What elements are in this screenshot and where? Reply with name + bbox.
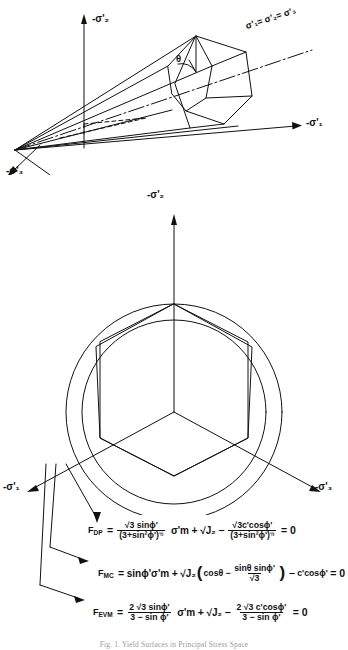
- pi-axis-sigma2-label: -σ'₂: [147, 190, 164, 200]
- equation-fmc-inner-fraction: sinθ sinϕ' √3: [232, 564, 277, 583]
- equation-fmc-plus: +: [172, 567, 178, 579]
- top-axis-sigma3-label: -σ'₃: [6, 166, 23, 176]
- equation-fevm-equals: =: [117, 606, 123, 618]
- cone-generators: [15, 36, 238, 150]
- figure-caption: Fig. 1. Yield Surfaces in Principal Stre…: [0, 640, 348, 649]
- equation-fdp-sigma-m: σ'm: [171, 525, 189, 536]
- equation-fmc-tail: = 0: [330, 567, 345, 579]
- equation-fmc-equals: =: [118, 567, 124, 579]
- equation-fevm-plus: +: [198, 606, 204, 618]
- equation-fdp-minus: −: [218, 524, 224, 536]
- equation-fevm-name: FEVM: [93, 607, 113, 618]
- principal-stress-space-diagram: [0, 0, 348, 175]
- equation-fevm-tail: = 0: [293, 606, 308, 618]
- equation-fevm: FEVM = 2 √3 sinϕ' 3 − sin ϕ' σ'm + √J₂ −…: [93, 603, 310, 622]
- equation-fevm-cohesion-term: 2 √3 c'cosϕ' 3 − sin ϕ': [235, 603, 289, 622]
- equation-fevm-minus: −: [224, 606, 230, 618]
- equation-fdp-plus: +: [192, 524, 198, 536]
- figure-canvas: -σ'₂ -σ'₁ -σ'₃ σ'₁= σ'₂= σ'₃ θ: [0, 0, 348, 650]
- equation-fevm-sigma-m: σ'm: [177, 607, 195, 618]
- leader-to-fmc: [50, 464, 89, 564]
- equation-fdp-tail: = 0: [281, 524, 296, 536]
- equation-fmc-paren-close: ): [279, 563, 285, 583]
- equation-fmc-sqrt-j2: √J₂: [180, 568, 196, 579]
- equation-fdp-cohesion-term: √3c'cosϕ' (3+sin²ϕ')½: [228, 521, 276, 540]
- equation-fmc-name: FMC: [98, 568, 114, 579]
- equation-fmc-coefficient: sinϕ'σ'm: [127, 568, 169, 579]
- equation-fdp-coefficient: √3 sinϕ' (3+sin²ϕ')½: [117, 521, 165, 540]
- equation-fevm-sqrt-j2: √J₂: [206, 607, 222, 618]
- equation-fmc-cohesion-term: c'cosϕ': [297, 568, 327, 578]
- hexagon-section-far: [175, 36, 252, 128]
- equation-fevm-coefficient: 2 √3 sinϕ' 3 − sin ϕ': [127, 603, 171, 622]
- pi-axis-sigma2: [171, 214, 177, 412]
- hydrostatic-axis: [15, 50, 312, 150]
- equation-fdp-name: FDP: [88, 525, 103, 536]
- lode-angle-label: θ: [176, 54, 181, 64]
- equation-fmc-paren-open: (: [197, 563, 203, 583]
- equation-fmc-cos-theta: cosθ −: [204, 568, 231, 578]
- hexagon-section-near: [168, 36, 212, 111]
- equation-fmc: FMC = sinϕ'σ'm + √J₂ ( cosθ − sinθ sinϕ'…: [98, 563, 348, 583]
- equation-fdp-sqrt-j2: √J₂: [200, 525, 216, 536]
- top-axis-sigma2-label: -σ'₂: [92, 14, 109, 24]
- leader-to-fdp: [66, 464, 101, 523]
- top-axis-sigma1-label: -σ'₁: [306, 118, 323, 128]
- equation-fmc-minus: −: [289, 567, 295, 579]
- equation-fdp: FDP = √3 sinϕ' (3+sin²ϕ')½ σ'm + √J₂ − √…: [88, 521, 298, 540]
- equation-fdp-equals: =: [107, 524, 113, 536]
